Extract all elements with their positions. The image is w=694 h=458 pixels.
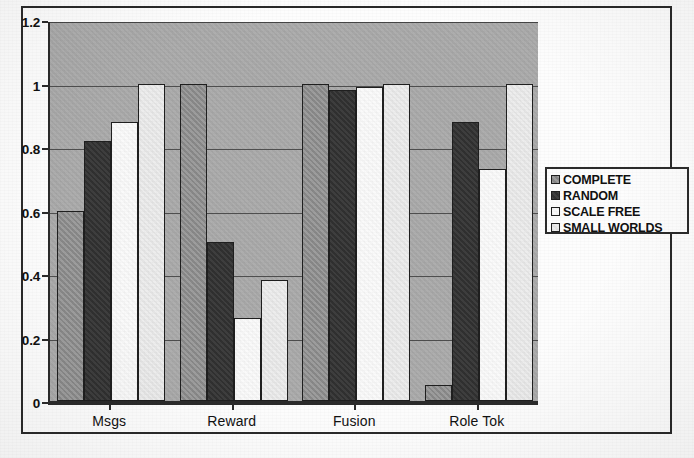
y-tick-label: 0.8 xyxy=(0,142,40,157)
legend-label: SCALE FREE xyxy=(563,205,640,219)
legend-swatch-icon xyxy=(551,207,560,216)
bar-group xyxy=(418,22,541,401)
bar-complete-msgs xyxy=(57,211,84,402)
legend-item-small-worlds[interactable]: SMALL WORLDS xyxy=(551,220,683,235)
legend-item-complete[interactable]: COMPLETE xyxy=(551,172,683,187)
x-tick-label-fusion: Fusion xyxy=(333,413,376,429)
bar-complete-fusion xyxy=(302,84,329,402)
bar-random-msgs xyxy=(84,141,111,401)
y-tick-label: 0.2 xyxy=(0,332,40,347)
legend-label: RANDOM xyxy=(563,189,618,203)
y-tick-label: 0.4 xyxy=(0,269,40,284)
y-tick-mark xyxy=(42,339,48,341)
bar-scale-free-fusion xyxy=(356,87,383,401)
x-tick-label-reward: Reward xyxy=(207,413,256,429)
legend-label: COMPLETE xyxy=(563,173,631,187)
bar-group xyxy=(50,22,173,401)
y-tick-label: 0 xyxy=(0,396,40,411)
x-tick-label-role-tok: Role Tok xyxy=(449,413,504,429)
plot-area xyxy=(48,22,538,403)
y-tick-mark xyxy=(42,148,48,150)
x-tick-mark xyxy=(477,403,479,410)
x-tick-label-msgs: Msgs xyxy=(92,413,126,429)
bar-random-role-tok xyxy=(452,122,479,401)
chart-legend: COMPLETERANDOMSCALE FREESMALL WORLDS xyxy=(545,167,689,234)
legend-swatch-icon xyxy=(551,175,560,184)
bar-scale-free-reward xyxy=(234,318,261,401)
legend-swatch-icon xyxy=(551,223,560,232)
y-tick-mark xyxy=(42,85,48,87)
bar-group xyxy=(173,22,296,401)
bar-small-worlds-fusion xyxy=(383,84,410,402)
bar-chart: 00.20.40.60.811.2 MsgsRewardFusionRole T… xyxy=(0,0,694,458)
x-axis-line xyxy=(48,403,538,405)
bar-small-worlds-msgs xyxy=(138,84,165,402)
legend-item-scale-free[interactable]: SCALE FREE xyxy=(551,204,683,219)
y-tick-mark xyxy=(42,212,48,214)
legend-swatch-icon xyxy=(551,191,560,200)
legend-label: SMALL WORLDS xyxy=(563,221,662,235)
bar-complete-role-tok xyxy=(425,385,452,401)
x-tick-mark xyxy=(109,403,111,410)
x-tick-mark xyxy=(232,403,234,410)
y-tick-label: 1 xyxy=(0,78,40,93)
bar-complete-reward xyxy=(180,84,207,402)
x-tick-mark xyxy=(354,403,356,410)
bar-small-worlds-role-tok xyxy=(506,84,533,402)
bar-random-reward xyxy=(207,242,234,401)
y-tick-label: 1.2 xyxy=(0,15,40,30)
bar-scale-free-msgs xyxy=(111,122,138,401)
y-tick-mark xyxy=(42,21,48,23)
bar-group xyxy=(295,22,418,401)
legend-item-random[interactable]: RANDOM xyxy=(551,188,683,203)
bar-scale-free-role-tok xyxy=(479,169,506,401)
y-tick-mark xyxy=(42,275,48,277)
bar-random-fusion xyxy=(329,90,356,401)
y-tick-label: 0.6 xyxy=(0,205,40,220)
bar-small-worlds-reward xyxy=(261,280,288,401)
